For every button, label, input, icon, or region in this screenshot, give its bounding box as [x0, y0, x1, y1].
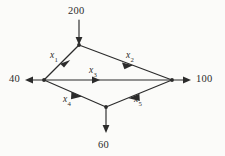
demand-label-100: 100 — [196, 74, 212, 85]
diagram-canvas — [0, 0, 225, 156]
arc-label-x4-subscript: 4 — [67, 100, 70, 107]
demand-arrow-40 — [25, 77, 44, 84]
arc-label-x1: x1 — [50, 51, 58, 63]
arc-label-x3-subscript: 3 — [93, 71, 96, 78]
top-node — [77, 43, 81, 47]
right-node — [170, 78, 174, 82]
arc-x4 — [44, 80, 106, 107]
demand-arrow-100 — [172, 77, 191, 84]
arc-label-x2: x2 — [126, 51, 134, 63]
demand-arrow-60 — [103, 107, 110, 133]
bottom-node — [104, 105, 108, 109]
demand-label-40: 40 — [9, 74, 20, 85]
arc-label-x5: x5 — [134, 95, 142, 107]
left-node — [42, 78, 46, 82]
network-flow-figure: 200 40 100 60 x1 x2 x3 x4 x5 — [0, 0, 225, 156]
supply-arrow-200 — [76, 20, 83, 45]
supply-label-200: 200 — [68, 6, 84, 17]
demand-label-60: 60 — [98, 140, 109, 151]
arc-label-x4: x4 — [63, 95, 71, 107]
arc-x3 — [44, 77, 172, 84]
arc-label-x2-subscript: 2 — [130, 56, 133, 63]
arc-label-x1-subscript: 1 — [54, 56, 57, 63]
arc-label-x3: x3 — [89, 66, 97, 78]
arc-label-x5-subscript: 5 — [138, 100, 141, 107]
